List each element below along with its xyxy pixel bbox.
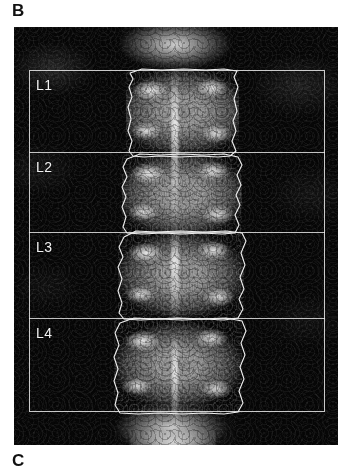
lumbar-spine-column bbox=[100, 27, 250, 445]
vertebral-body-l2 bbox=[122, 153, 242, 235]
figure-panel-b: B bbox=[0, 0, 351, 472]
vertebra-texture-l4 bbox=[114, 317, 242, 413]
bone-above-roi-t12 bbox=[116, 27, 234, 69]
vertebra-texture-l1 bbox=[126, 69, 239, 155]
vertebral-body-l1 bbox=[126, 69, 239, 155]
vertebra-texture-l3 bbox=[118, 231, 244, 319]
vertebra-texture-l2 bbox=[122, 153, 242, 235]
panel-label-b: B bbox=[12, 2, 24, 19]
dxa-lumbar-spine-scan-image: L1 L2 L3 L4 bbox=[14, 27, 338, 445]
panel-label-c: C bbox=[12, 452, 24, 469]
vertebral-body-l4 bbox=[114, 317, 242, 413]
bone-below-roi-sacrum-lower bbox=[130, 429, 216, 445]
vertebral-body-l3 bbox=[118, 231, 244, 319]
